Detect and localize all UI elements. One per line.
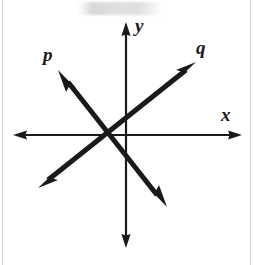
x-axis-label: x xyxy=(221,105,231,124)
coordinate-plane-figure: y x p q xyxy=(0,0,253,265)
y-axis-arrow-up xyxy=(121,22,130,36)
line-q xyxy=(38,62,196,188)
line-q-label: q xyxy=(196,38,206,57)
line-p-segment xyxy=(68,82,157,195)
line-p-label: p xyxy=(43,45,53,64)
line-p xyxy=(58,70,167,207)
diagram-canvas xyxy=(0,0,253,265)
y-axis-arrow-down xyxy=(121,234,130,248)
x-axis-arrow-right xyxy=(228,130,242,139)
x-axis-arrow-left xyxy=(13,130,27,139)
x-axis xyxy=(13,130,242,139)
y-axis-label: y xyxy=(135,16,143,35)
